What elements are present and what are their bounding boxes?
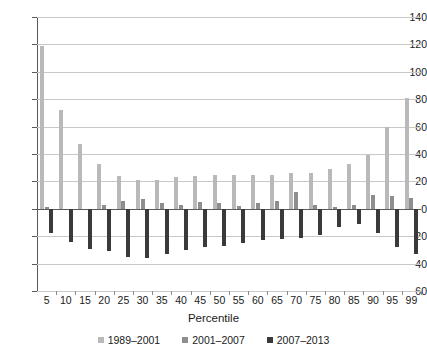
bar bbox=[160, 203, 164, 208]
bar bbox=[179, 205, 183, 209]
bar bbox=[256, 203, 260, 208]
bar bbox=[145, 209, 149, 258]
bar bbox=[193, 176, 197, 209]
bar bbox=[78, 144, 82, 208]
bar bbox=[357, 209, 361, 224]
bar-group bbox=[232, 17, 246, 291]
bar bbox=[136, 180, 140, 209]
bar bbox=[40, 46, 44, 209]
bar-group bbox=[40, 17, 54, 291]
bar-group bbox=[59, 17, 73, 291]
bar bbox=[217, 203, 221, 208]
bar bbox=[88, 209, 92, 249]
bar bbox=[313, 205, 317, 209]
bar bbox=[409, 198, 413, 209]
bar-group bbox=[117, 17, 131, 291]
bar bbox=[328, 169, 332, 209]
legend-label: 2001–2007 bbox=[192, 334, 245, 346]
bar bbox=[198, 202, 202, 209]
legend-label: 2007–2013 bbox=[277, 334, 330, 346]
bar bbox=[222, 209, 226, 246]
bar bbox=[251, 175, 255, 209]
bar bbox=[141, 199, 145, 209]
bar bbox=[97, 164, 101, 209]
bar-group bbox=[347, 17, 361, 291]
legend-label: 1989–2001 bbox=[108, 334, 161, 346]
legend-swatch-icon bbox=[267, 337, 273, 343]
bar bbox=[385, 127, 389, 209]
bar bbox=[174, 177, 178, 209]
bar-group bbox=[270, 17, 284, 291]
bar bbox=[107, 209, 111, 251]
bar bbox=[69, 209, 73, 242]
bar bbox=[155, 180, 159, 209]
bar bbox=[347, 164, 351, 209]
bar bbox=[376, 209, 380, 234]
bar-group bbox=[328, 17, 342, 291]
bar bbox=[117, 176, 121, 209]
bar bbox=[352, 205, 356, 209]
bar bbox=[213, 175, 217, 209]
bar-group bbox=[309, 17, 323, 291]
bar-group bbox=[193, 17, 207, 291]
bar bbox=[337, 209, 341, 227]
bar bbox=[414, 209, 418, 254]
bar bbox=[203, 209, 207, 247]
bar bbox=[232, 175, 236, 209]
bar bbox=[241, 209, 245, 243]
bar bbox=[390, 196, 394, 208]
bar bbox=[289, 173, 293, 209]
bar bbox=[318, 209, 322, 235]
bar-group bbox=[251, 17, 265, 291]
bar bbox=[45, 207, 49, 208]
legend-swatch-icon bbox=[98, 337, 104, 343]
bar bbox=[126, 209, 130, 257]
bar bbox=[280, 209, 284, 239]
bar bbox=[184, 209, 188, 250]
bar bbox=[366, 155, 370, 208]
chart-legend: 1989–20012001–20072007–2013 bbox=[0, 334, 427, 346]
bar bbox=[405, 98, 409, 209]
bar-group bbox=[174, 17, 188, 291]
bar bbox=[121, 201, 125, 209]
x-axis-tick-labels: 510152025303540455055606570758085909599 bbox=[37, 294, 421, 308]
bar-group bbox=[97, 17, 111, 291]
legend-swatch-icon bbox=[182, 337, 188, 343]
bar-group bbox=[213, 17, 227, 291]
bar bbox=[59, 110, 63, 209]
bar bbox=[299, 209, 303, 238]
bar bbox=[165, 209, 169, 254]
legend-item: 2001–2007 bbox=[182, 334, 245, 346]
bar bbox=[371, 195, 375, 209]
x-axis-label: Percentile bbox=[0, 312, 427, 324]
bar bbox=[270, 175, 274, 209]
legend-item: 1989–2001 bbox=[98, 334, 161, 346]
bar bbox=[309, 173, 313, 209]
bar-group bbox=[385, 17, 399, 291]
bar bbox=[261, 209, 265, 241]
x-tick-label: 99 bbox=[396, 294, 427, 306]
bar bbox=[275, 201, 279, 209]
bar bbox=[395, 209, 399, 247]
legend-item: 2007–2013 bbox=[267, 334, 330, 346]
bar bbox=[49, 209, 53, 234]
bar bbox=[102, 205, 106, 209]
bar-group bbox=[78, 17, 92, 291]
bar bbox=[333, 207, 337, 208]
bar-series-container bbox=[37, 17, 421, 291]
bar bbox=[294, 192, 298, 208]
bar bbox=[237, 206, 241, 209]
bar-group bbox=[289, 17, 303, 291]
bar-group bbox=[366, 17, 380, 291]
bar-group bbox=[155, 17, 169, 291]
chart-root: 140120100806040200−20−40−60 510152025303… bbox=[0, 0, 427, 360]
bar-group bbox=[136, 17, 150, 291]
bar-group bbox=[405, 17, 419, 291]
plot-area bbox=[37, 17, 421, 291]
